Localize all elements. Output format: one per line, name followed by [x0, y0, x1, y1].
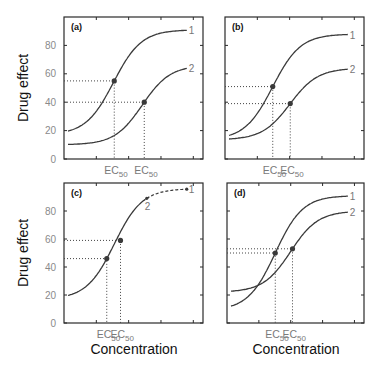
plot-frame: [64, 183, 203, 323]
curve-label-2: 2: [350, 207, 356, 218]
ec50-point-2: [290, 246, 295, 251]
plot-frame: [225, 17, 364, 159]
svg-text:0: 0: [50, 154, 56, 165]
panel-b: (b)12EC50EC50: [225, 17, 364, 179]
svg-text:60: 60: [45, 234, 57, 245]
curve-label-1: 1: [189, 25, 195, 36]
curve-2: [68, 68, 187, 144]
panel-label: (d): [234, 188, 246, 198]
ec50-point-2: [118, 238, 123, 243]
panel-label: (a): [71, 22, 82, 32]
curve-2-end-marker: [145, 197, 148, 200]
y-tick-labels-top: 0 20 40 60 80: [45, 40, 57, 165]
ec50-guide-2: [227, 249, 293, 323]
plot-frame: [64, 17, 203, 159]
y-axis-label-bottom: Drug effect: [15, 219, 31, 287]
curve-1: [231, 196, 348, 306]
panel-label: (b): [232, 22, 244, 32]
curve-2: [231, 212, 348, 291]
ec50-point-2: [142, 100, 147, 105]
curve-1-dashed: [147, 189, 187, 198]
curve-1: [68, 199, 146, 295]
ec50-guide-2: [64, 240, 121, 323]
curve-label-1: 1: [350, 30, 356, 41]
svg-text:80: 80: [45, 40, 57, 51]
svg-text:60: 60: [45, 68, 57, 79]
ec50-guide-2: [64, 102, 144, 159]
curve-1: [229, 35, 348, 136]
svg-text:40: 40: [45, 97, 57, 108]
y-axis-label-top: Drug effect: [15, 54, 31, 122]
x-axis-label-right: Concentration: [252, 341, 339, 357]
figure: Drug effect Drug effect Concentration Co…: [0, 0, 378, 370]
svg-text:40: 40: [45, 262, 57, 273]
plot-frame: [227, 183, 364, 323]
ec50-tick-label: EC50: [104, 164, 128, 179]
svg-text:0: 0: [50, 318, 56, 329]
svg-text:20: 20: [45, 290, 57, 301]
svg-text:20: 20: [45, 125, 57, 136]
ec50-point-1: [273, 250, 278, 255]
curve-label-2: 2: [189, 63, 195, 74]
curve-label-1: 1: [189, 184, 195, 195]
svg-text:80: 80: [45, 206, 57, 217]
ec50-point-1: [104, 256, 109, 261]
panel-c: (c)21EC50EC50: [64, 183, 203, 343]
y-tick-labels-bottom: 0 20 40 60 80: [45, 206, 57, 329]
curve-label-2: 2: [350, 64, 356, 75]
ec50-guide-1: [64, 259, 107, 323]
panel-label: (c): [71, 188, 82, 198]
panel-d: (d)12EC50EC50: [227, 183, 364, 343]
panel-a: (a)12EC50EC50: [64, 17, 203, 179]
x-axis-label-left: Concentration: [90, 341, 177, 357]
ec50-point-1: [112, 78, 117, 83]
ec50-point-2: [288, 101, 293, 106]
curve-label-1: 1: [350, 191, 356, 202]
ec50-tick-label: EC50: [134, 164, 158, 179]
ec50-point-1: [270, 84, 275, 89]
curve-label-2: 2: [145, 201, 151, 212]
